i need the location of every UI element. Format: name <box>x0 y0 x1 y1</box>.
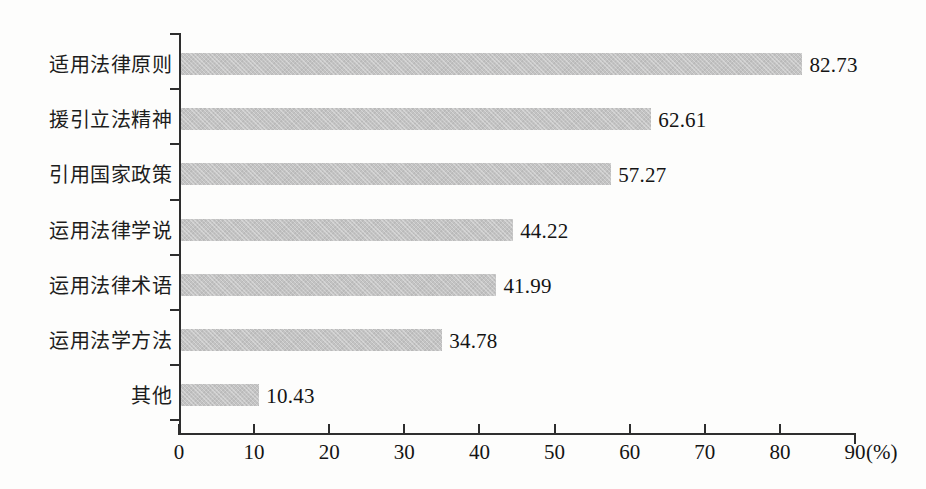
x-axis-tick <box>704 424 706 434</box>
plot-area: 适用法律原则援引立法精神引用国家政策运用法律学说运用法律术语运用法学方法其他 8… <box>0 0 926 489</box>
bar <box>181 219 513 241</box>
x-axis-tick-label: 20 <box>299 440 359 464</box>
y-axis-tick <box>170 88 179 90</box>
category-label: 其他 <box>0 385 172 407</box>
x-axis-line <box>179 433 856 435</box>
bar <box>181 53 802 75</box>
x-axis-tick <box>779 424 781 434</box>
y-axis-tick <box>170 364 179 366</box>
category-label: 运用法学方法 <box>0 330 172 352</box>
category-label: 运用法律学说 <box>0 220 172 242</box>
x-axis-tick-label: 40 <box>449 440 509 464</box>
value-label: 10.43 <box>266 385 314 407</box>
category-label: 援引立法精神 <box>0 109 172 131</box>
y-axis-tick <box>170 199 179 201</box>
bar <box>181 384 259 406</box>
category-label: 适用法律原则 <box>0 54 172 76</box>
x-axis-tick <box>253 424 255 434</box>
value-label: 62.61 <box>658 109 706 131</box>
bar <box>181 108 651 130</box>
bar <box>181 329 442 351</box>
value-label: 34.78 <box>449 330 497 352</box>
y-axis-tick <box>170 33 179 35</box>
x-axis-unit-label: (%) <box>866 440 897 464</box>
category-label: 运用法律术语 <box>0 275 172 297</box>
y-axis-tick <box>170 309 179 311</box>
x-axis-tick-label: 50 <box>525 440 585 464</box>
y-axis-tick <box>170 419 179 421</box>
x-axis-tick <box>478 424 480 434</box>
value-label: 57.27 <box>618 164 666 186</box>
y-axis-tick <box>170 254 179 256</box>
value-label: 41.99 <box>503 275 551 297</box>
bar-chart: 适用法律原则援引立法精神引用国家政策运用法律学说运用法律术语运用法学方法其他 8… <box>0 0 926 489</box>
x-axis-tick-label: 70 <box>675 440 735 464</box>
x-axis-tick-label: 60 <box>600 440 660 464</box>
x-axis-tick-label: 0 <box>149 440 209 464</box>
x-axis-tick <box>403 424 405 434</box>
value-label: 44.22 <box>520 220 568 242</box>
x-axis-tick <box>554 424 556 434</box>
x-axis-tick-label: 80 <box>750 440 810 464</box>
x-axis-tick <box>328 424 330 434</box>
bar <box>181 274 496 296</box>
x-axis-tick-label: 30 <box>374 440 434 464</box>
y-axis-tick <box>170 143 179 145</box>
x-axis-tick <box>178 424 180 435</box>
x-axis-tick-label: 10 <box>224 440 284 464</box>
x-axis-tick <box>629 424 631 434</box>
bar <box>181 163 611 185</box>
category-label: 引用国家政策 <box>0 164 172 186</box>
value-label: 82.73 <box>809 54 857 76</box>
